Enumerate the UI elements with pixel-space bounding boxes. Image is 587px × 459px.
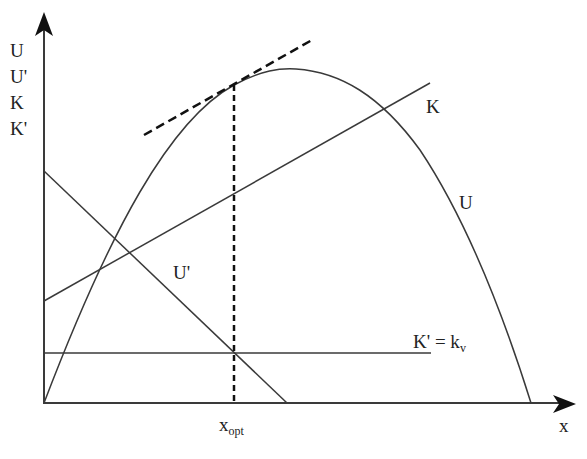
diagram-canvas: U U' K K' K U U' K' = kv xopt x: [0, 0, 587, 459]
label-k-prime: K' = kv: [413, 332, 466, 354]
label-u: U: [459, 193, 473, 212]
y-label-k: K: [10, 90, 27, 116]
label-k: K: [426, 97, 440, 116]
line-u-prime: [44, 171, 287, 403]
y-label-u-prime: U': [10, 64, 27, 90]
y-label-k-prime: K': [10, 116, 27, 142]
y-axis-labels: U U' K K': [10, 38, 27, 142]
line-k: [44, 83, 430, 301]
label-x-axis: x: [559, 416, 569, 435]
label-u-prime: U': [173, 263, 190, 282]
tangent-line: [144, 40, 312, 135]
y-label-u: U: [10, 38, 27, 64]
label-x-opt: xopt: [219, 415, 244, 437]
diagram-svg: [0, 0, 587, 459]
